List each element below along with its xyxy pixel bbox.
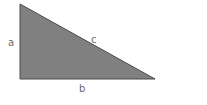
right-triangle-diagram: a b c — [0, 0, 207, 105]
side-a-label: a — [8, 37, 14, 48]
side-b-label: b — [79, 83, 85, 94]
triangle-shape — [20, 4, 155, 79]
side-c-label: c — [91, 34, 97, 45]
